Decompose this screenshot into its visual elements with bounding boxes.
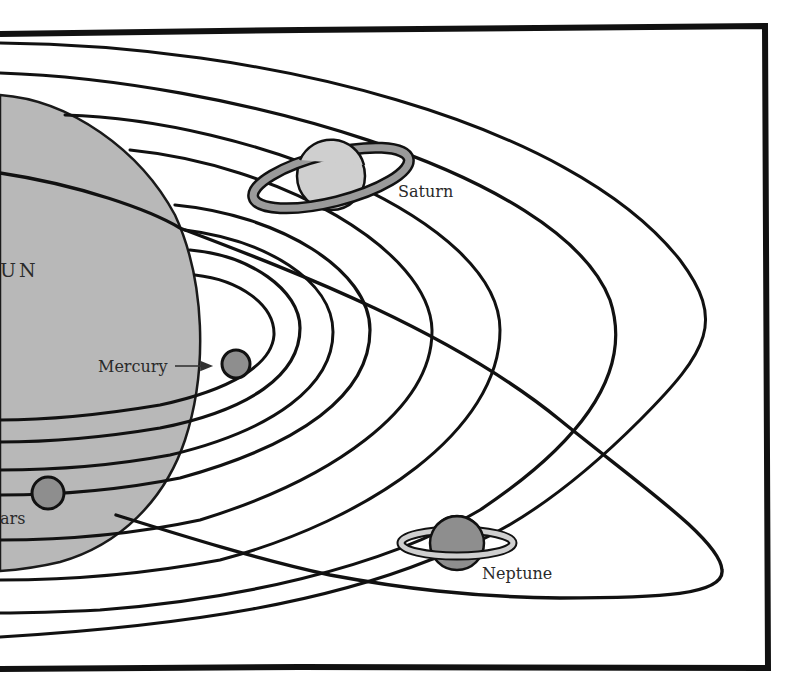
solar-system-diagram: UN Saturn Mercury ars Neptune	[0, 0, 806, 695]
planet-neptune	[401, 516, 513, 570]
planet-saturn	[248, 128, 415, 221]
mars-label: ars	[0, 511, 25, 527]
neptune-label: Neptune	[482, 566, 552, 582]
diagram-canvas	[0, 0, 806, 695]
sun-disc	[0, 95, 200, 571]
sun-label: UN	[0, 261, 39, 280]
mercury-label: Mercury	[98, 359, 167, 375]
planet-mars	[32, 477, 64, 509]
saturn-label: Saturn	[398, 184, 453, 200]
planet-mercury	[222, 350, 250, 378]
